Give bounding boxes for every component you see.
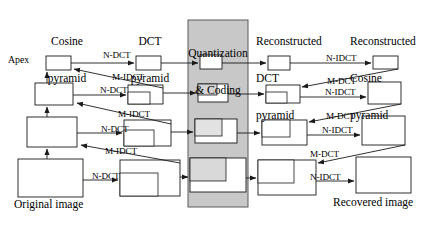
cosine-box-level-3[interactable] (27, 117, 77, 147)
edge-label-nidct-level-3: N-IDCT (322, 126, 353, 136)
edge-label-nidct-level-2: N-IDCT (325, 88, 356, 98)
header-cosine-pyramid: Cosine pyramid (22, 10, 112, 109)
header-recon-cosine-line-3: pyramid (350, 109, 437, 121)
header-recon-dct-line-1: Reconstructed (256, 35, 352, 47)
header-recon-cosine-line-1: Reconstructed (350, 35, 437, 47)
caption-recovered-image: Recovered image (333, 196, 413, 208)
edge-label-ndct-level-1: N-DCT (103, 51, 131, 61)
header-quantization-line-1: Quantization (186, 47, 250, 59)
quant-box-level-4-nested (190, 158, 226, 181)
edge-label-mdct-level-2: M-DCT (326, 112, 355, 122)
header-quantization-coding: Quantization & Coding (186, 22, 250, 121)
edge-label-midct-level-1: M-IDCT (112, 73, 144, 83)
edge-label-ndct-level-2: N-DCT (100, 86, 128, 96)
dct-box-level-4-nested (120, 173, 158, 196)
header-quantization-line-2: & Coding (186, 84, 250, 96)
header-recon-cosine-line-2: Cosine (350, 72, 437, 84)
header-dct-pyramid-line-1: DCT (122, 35, 178, 47)
caption-apex: Apex (8, 55, 29, 66)
diagram-canvas: Cosine pyramid DCT pyramid Quantization … (0, 0, 437, 226)
quant-box-level-3-nested (195, 119, 222, 136)
header-cosine-pyramid-line-2: pyramid (22, 72, 112, 84)
edge-label-nidct-level-4: N-IDCT (310, 173, 341, 183)
edge-label-mdct-level-1: M-DCT (327, 77, 356, 87)
edge-label-mdct-level-3: M-DCT (310, 150, 339, 160)
cosine-box-level-4[interactable] (18, 159, 83, 197)
recon-dct-box-level-4-nested (258, 160, 294, 183)
recon-cosine-box-level-4[interactable] (356, 157, 411, 193)
header-cosine-pyramid-line-1: Cosine (22, 35, 112, 47)
header-reconstructed-cosine-pyramid: Reconstructed Cosine pyramid (350, 10, 437, 146)
edge-label-midct-level-2: M-IDCT (118, 110, 150, 120)
edge-label-ndct-level-3: N-DCT (101, 125, 129, 135)
caption-original-image: Original image (14, 198, 83, 210)
edge-label-midct-level-3: M-IDCT (105, 147, 137, 157)
edge-label-ndct-level-4: N-DCT (92, 172, 120, 182)
edge-label-nidct-level-1: N-IDCT (326, 54, 357, 64)
